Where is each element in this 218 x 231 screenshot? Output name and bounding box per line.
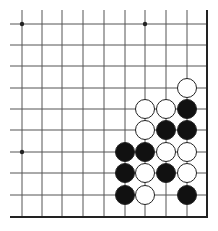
black-stone[interactable] — [157, 121, 176, 140]
star-point — [20, 150, 24, 154]
black-stone[interactable] — [178, 100, 197, 119]
black-stone[interactable] — [157, 164, 176, 183]
black-stone[interactable] — [136, 143, 155, 162]
white-stone[interactable] — [178, 164, 197, 183]
black-stone[interactable] — [116, 186, 135, 205]
white-stone[interactable] — [136, 164, 155, 183]
white-stone[interactable] — [178, 79, 197, 98]
white-stone[interactable] — [157, 100, 176, 119]
black-stone[interactable] — [178, 186, 197, 205]
go-board[interactable] — [0, 0, 218, 231]
white-stone[interactable] — [136, 186, 155, 205]
white-stone[interactable] — [136, 121, 155, 140]
star-point — [143, 22, 147, 26]
black-stone[interactable] — [116, 143, 135, 162]
white-stone[interactable] — [136, 100, 155, 119]
white-stone[interactable] — [178, 143, 197, 162]
black-stone[interactable] — [178, 121, 197, 140]
black-stone[interactable] — [116, 164, 135, 183]
white-stone[interactable] — [157, 143, 176, 162]
star-point — [20, 22, 24, 26]
